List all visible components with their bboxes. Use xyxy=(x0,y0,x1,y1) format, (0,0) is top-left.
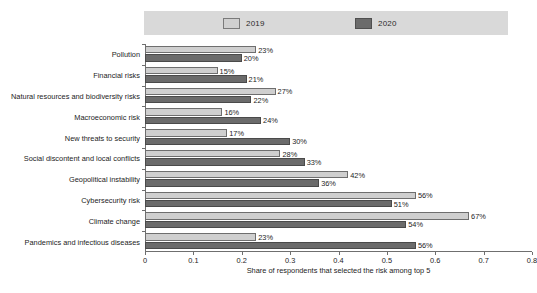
y-axis-tick xyxy=(142,231,145,232)
bar-2020: 20% xyxy=(145,54,242,61)
x-axis-tick-label: 0 xyxy=(143,256,147,265)
legend-label-2019: 2019 xyxy=(246,19,265,28)
bar-2019: 42% xyxy=(145,171,348,178)
y-axis-tick xyxy=(142,148,145,149)
bar-value-label: 24% xyxy=(263,116,278,125)
bar-2019: 15% xyxy=(145,67,218,74)
category-label: Cybersecurity risk xyxy=(81,195,140,204)
bar-value-label: 16% xyxy=(224,108,239,117)
x-axis-tick-label: 0.7 xyxy=(478,256,488,265)
legend-swatch-2020-icon xyxy=(355,18,372,29)
x-axis-tick xyxy=(435,252,436,255)
y-axis-tick xyxy=(142,65,145,66)
category-label: Social discontent and local conflicts xyxy=(24,154,140,163)
bar-group: New threats to security17%30% xyxy=(145,127,532,148)
x-axis-tick xyxy=(242,252,243,255)
x-axis-tick-label: 0.2 xyxy=(237,256,247,265)
legend-item-2020: 2020 xyxy=(355,18,397,29)
x-axis-tick xyxy=(339,252,340,255)
bar-2020: 21% xyxy=(145,75,247,82)
x-axis-tick-label: 0.6 xyxy=(430,256,440,265)
legend-swatch-2019-icon xyxy=(223,18,240,29)
x-axis-tick-label: 0.1 xyxy=(188,256,198,265)
bar-group: Climate change67%54% xyxy=(145,210,532,231)
y-axis-tick xyxy=(142,106,145,107)
bar-value-label: 21% xyxy=(249,74,264,83)
category-label: New threats to security xyxy=(65,133,140,142)
bar-2019: 17% xyxy=(145,129,227,136)
bar-value-label: 56% xyxy=(418,191,433,200)
bar-value-label: 15% xyxy=(220,66,235,75)
bar-2020: 36% xyxy=(145,179,319,186)
bar-2020: 22% xyxy=(145,96,251,103)
bar-value-label: 42% xyxy=(350,170,365,179)
bar-value-label: 28% xyxy=(282,149,297,158)
x-axis-tick-label: 0.8 xyxy=(527,256,537,265)
bar-value-label: 30% xyxy=(292,137,307,146)
x-axis-tick xyxy=(387,252,388,255)
y-axis-tick xyxy=(142,127,145,128)
bar-value-label: 51% xyxy=(394,199,409,208)
bar-2020: 33% xyxy=(145,158,305,165)
x-axis-tick xyxy=(484,252,485,255)
bar-2019: 56% xyxy=(145,192,416,199)
bar-value-label: 27% xyxy=(278,87,293,96)
bar-value-label: 17% xyxy=(229,128,244,137)
x-axis-tick xyxy=(145,252,146,255)
bar-value-label: 23% xyxy=(258,232,273,241)
chart-plot-area: Pollution23%20%Financial risks15%21%Natu… xyxy=(145,44,532,252)
x-axis-tick-label: 0.3 xyxy=(285,256,295,265)
bar-group: Cybersecurity risk56%51% xyxy=(145,190,532,211)
bar-2019: 67% xyxy=(145,212,469,219)
bar-2019: 28% xyxy=(145,150,280,157)
bar-group: Macroeconomic risk16%24% xyxy=(145,106,532,127)
y-axis-tick xyxy=(142,86,145,87)
x-axis: 00.10.20.30.40.50.60.70.8 xyxy=(145,252,532,266)
x-axis-tick xyxy=(290,252,291,255)
bar-2019: 23% xyxy=(145,46,256,53)
bar-group: Geopolitical instability42%36% xyxy=(145,169,532,190)
bar-group: Social discontent and local conflicts28%… xyxy=(145,148,532,169)
category-label: Climate change xyxy=(89,216,140,225)
bar-2020: 51% xyxy=(145,200,392,207)
category-label: Geopolitical instability xyxy=(69,175,140,184)
bar-value-label: 20% xyxy=(244,54,259,63)
category-label: Macroeconomic risk xyxy=(74,112,140,121)
x-axis-tick-label: 0.4 xyxy=(333,256,343,265)
y-axis-tick xyxy=(142,44,145,45)
x-axis-title: Share of respondents that selected the r… xyxy=(145,266,532,275)
legend-label-2020: 2020 xyxy=(378,19,397,28)
y-axis-tick xyxy=(142,190,145,191)
bar-2020: 30% xyxy=(145,138,290,145)
bar-value-label: 56% xyxy=(418,241,433,250)
bar-value-label: 36% xyxy=(321,178,336,187)
bar-value-label: 54% xyxy=(408,220,423,229)
bar-group: Pandemics and infectious diseases23%56% xyxy=(145,231,532,252)
bar-value-label: 67% xyxy=(471,212,486,221)
y-axis-tick xyxy=(142,169,145,170)
x-axis-tick-label: 0.5 xyxy=(382,256,392,265)
x-axis-tick xyxy=(193,252,194,255)
category-label: Natural resources and biodiversity risks xyxy=(11,91,140,100)
bar-2019: 27% xyxy=(145,88,276,95)
legend-item-2019: 2019 xyxy=(223,18,265,29)
category-label: Pandemics and infectious diseases xyxy=(25,237,140,246)
bar-2019: 16% xyxy=(145,108,222,115)
bar-group: Natural resources and biodiversity risks… xyxy=(145,86,532,107)
bar-group: Financial risks15%21% xyxy=(145,65,532,86)
bar-group: Pollution23%20% xyxy=(145,44,532,65)
bar-value-label: 22% xyxy=(253,95,268,104)
x-axis-tick xyxy=(532,252,533,255)
bar-2020: 24% xyxy=(145,117,261,124)
bar-2020: 54% xyxy=(145,221,406,228)
bar-2019: 23% xyxy=(145,233,256,240)
category-label: Financial risks xyxy=(93,71,140,80)
chart-legend: 2019 2020 xyxy=(144,11,508,35)
bar-value-label: 23% xyxy=(258,45,273,54)
bar-value-label: 33% xyxy=(307,158,322,167)
bar-2020: 56% xyxy=(145,242,416,249)
category-label: Pollution xyxy=(112,50,140,59)
y-axis-tick xyxy=(142,210,145,211)
